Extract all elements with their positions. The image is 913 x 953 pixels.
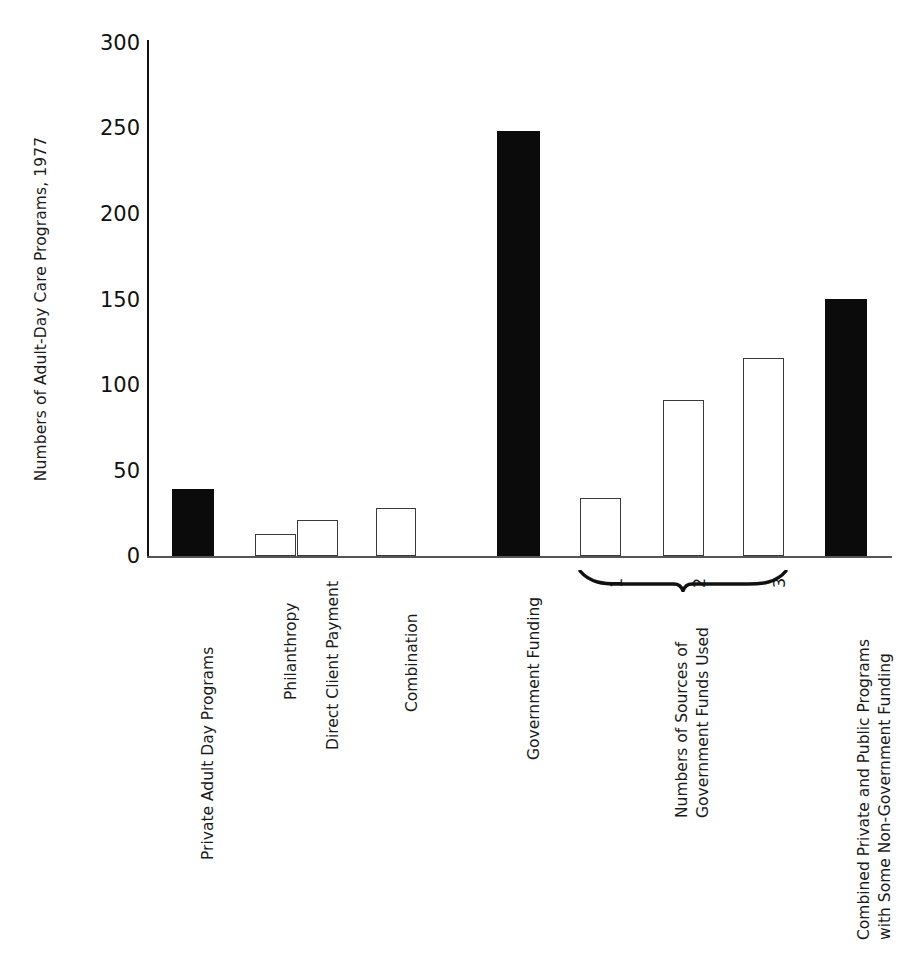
bar-sources-2 (663, 400, 704, 556)
y-axis-title: Numbers of Adult-Day Care Programs, 1977 (32, 49, 50, 569)
bar-sources-1 (580, 498, 621, 556)
bar-sources-3 (743, 358, 784, 556)
x-label-direct-client-payment: Direct Client Payment (325, 581, 342, 750)
y-tick-300: 300 (88, 33, 140, 54)
x-label-government-funding: Government Funding (526, 597, 543, 760)
x-label-private-adult-day-programs: Private Adult Day Programs (200, 647, 217, 860)
y-axis-line (147, 40, 149, 558)
x-label-combination: Combination (404, 613, 421, 712)
y-tick-100: 100 (88, 375, 140, 396)
last-label-line2: with Some Non-Government Funding (875, 639, 896, 940)
x-label-philanthropy: Philanthropy (283, 602, 300, 700)
x-label-combined-private-public: Combined Private and Public Programs wit… (854, 639, 896, 940)
group-label-line1: Numbers of Sources of (672, 627, 693, 818)
y-tick-250: 250 (88, 118, 140, 139)
bar-combination (376, 508, 416, 556)
bar-chart: Numbers of Adult-Day Care Programs, 1977… (0, 0, 913, 953)
y-tick-50: 50 (88, 461, 140, 482)
y-tick-150: 150 (88, 290, 140, 311)
bar-direct-client-payment (297, 520, 338, 556)
y-tick-200: 200 (88, 204, 140, 225)
last-label-line1: Combined Private and Public Programs (854, 639, 875, 940)
x-axis-line (147, 556, 892, 558)
bar-philanthropy (255, 534, 296, 556)
bar-combined-private-public (825, 299, 867, 556)
group-brace (578, 570, 788, 592)
group-label-line2: Government Funds Used (693, 627, 714, 818)
group-label-sources: Numbers of Sources of Government Funds U… (672, 627, 714, 818)
bar-private-adult-day-programs (172, 489, 214, 556)
y-tick-0: 0 (88, 546, 140, 567)
bar-government-funding (497, 131, 540, 556)
